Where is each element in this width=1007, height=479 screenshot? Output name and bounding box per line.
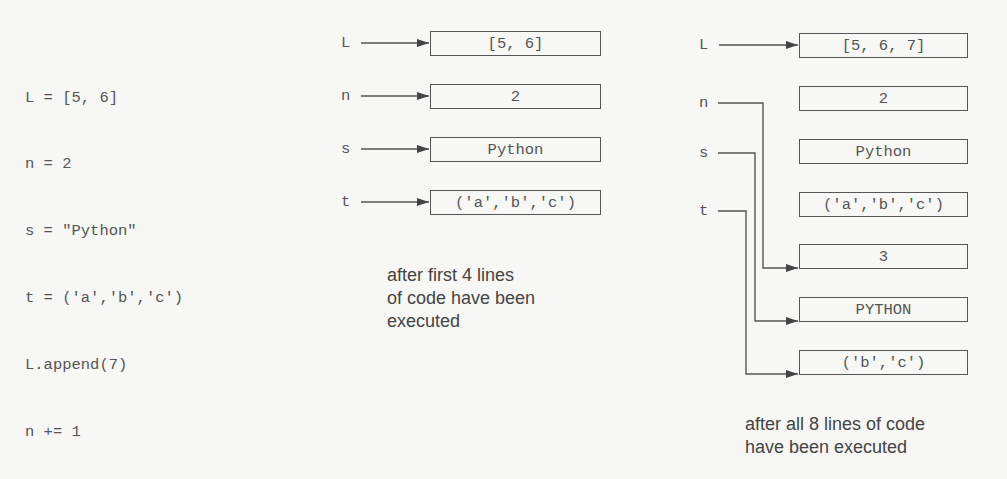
- object-box-int: 2: [430, 84, 601, 109]
- var-label-t: t: [699, 201, 719, 221]
- var-label-n: n: [341, 86, 361, 106]
- caption-line: executed: [387, 310, 535, 333]
- object-box-str-new: PYTHON: [799, 297, 968, 322]
- caption-line: of code have been: [387, 287, 535, 310]
- var-label-L: L: [699, 35, 719, 55]
- object-box-list: [5, 6]: [430, 31, 601, 56]
- caption-line: after first 4 lines: [387, 264, 535, 287]
- caption-before: after first 4 lines of code have been ex…: [387, 264, 535, 333]
- object-box-list: [5, 6, 7]: [799, 33, 968, 58]
- caption-line: after all 8 lines of code: [745, 413, 925, 436]
- object-box-int-old: 2: [799, 86, 968, 111]
- var-label-t: t: [341, 192, 361, 212]
- object-box-tuple-old: ('a','b','c'): [799, 192, 968, 217]
- object-box-int-new: 3: [799, 244, 968, 269]
- arrow-connectors: [0, 0, 1007, 479]
- object-box-tuple-new: ('b','c'): [799, 350, 968, 375]
- var-label-s: s: [699, 143, 719, 163]
- object-box-tuple: ('a','b','c'): [430, 190, 601, 215]
- object-box-str-old: Python: [799, 139, 968, 164]
- caption-after: after all 8 lines of code have been exec…: [745, 413, 925, 459]
- var-label-s: s: [341, 139, 361, 159]
- object-box-str: Python: [430, 137, 601, 162]
- var-label-L: L: [341, 33, 361, 53]
- caption-line: have been executed: [745, 436, 925, 459]
- var-label-n: n: [699, 93, 719, 113]
